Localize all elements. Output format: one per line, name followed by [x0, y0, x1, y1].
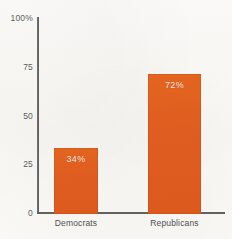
bar-value-republicans: 72%	[148, 81, 201, 90]
category-label-republicans: Republicans	[141, 219, 208, 228]
bar-chart: 100% 75 50 25 0 34% 72% Democrats Republ…	[0, 0, 232, 239]
y-axis-line	[37, 17, 39, 214]
y-tick-label-50: 50	[0, 111, 33, 120]
y-tick-label-100: 100%	[0, 14, 33, 23]
bar-republicans: 72%	[148, 74, 201, 214]
y-tick-label-75: 75	[0, 63, 33, 72]
y-tick-label-25: 25	[0, 160, 33, 169]
bar-value-democrats: 34%	[54, 155, 98, 164]
y-tick-label-0: 0	[0, 209, 33, 218]
category-label-democrats: Democrats	[46, 219, 106, 228]
bar-democrats: 34%	[54, 148, 98, 214]
